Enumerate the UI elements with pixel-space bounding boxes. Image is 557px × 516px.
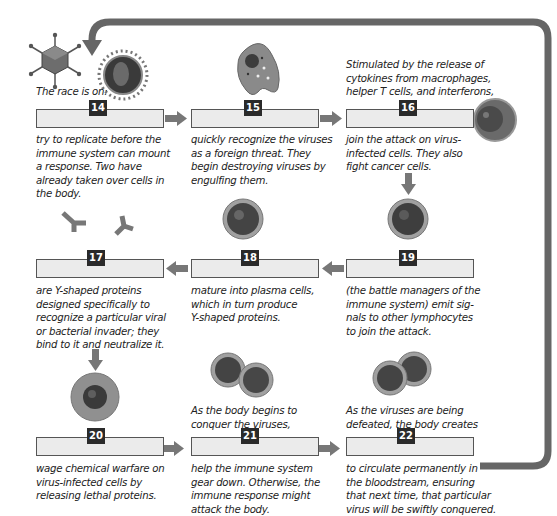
arrow-right-icon (320, 111, 342, 126)
killer-t-cell-icon (71, 373, 119, 421)
step-14-before-text: The race is on: (36, 85, 107, 99)
helper-t-cell-icon (388, 199, 428, 239)
loop-arrowhead-icon (82, 40, 102, 56)
memory-cells-icon (373, 352, 431, 395)
step-19-after-text: (the battle managers of the immune syste… (346, 284, 480, 338)
step-16-after-text: join the attack on virus- infected cells… (346, 133, 463, 174)
step-22-number-badge: 22 (397, 428, 415, 444)
step-16-before-text: Stimulated by the release of cytokines f… (346, 58, 494, 99)
antibodies-icon (63, 213, 133, 234)
step-18-number-badge: 18 (241, 250, 259, 266)
step-21-number-badge: 21 (241, 428, 259, 444)
macrophage-icon (238, 44, 279, 95)
arrow-left-icon (166, 261, 188, 276)
arrow-right-icon (318, 441, 340, 456)
step-14-number-badge: 14 (89, 100, 107, 116)
suppressor-t-cells-icon (211, 353, 273, 397)
natural-killer-cell-icon (474, 99, 516, 141)
step-20-after-text: wage chemical warfare on virus-infected … (36, 462, 165, 503)
step-21-after-text: help the immune system gear down. Otherw… (191, 462, 320, 516)
arrow-down-icon (401, 173, 416, 195)
step-15-number-badge: 15 (244, 100, 262, 116)
step-17-number-badge: 17 (87, 250, 105, 266)
step-18-after-text: mature into plasma cells, which in turn … (191, 284, 314, 325)
step-19-number-badge: 19 (399, 250, 417, 266)
step-14-after-text: try to replicate before the immune syste… (36, 133, 170, 201)
arrow-right-icon (165, 111, 187, 126)
step-16-number-badge: 16 (399, 100, 417, 116)
b-cell-icon (223, 199, 263, 239)
arrow-right-icon (162, 441, 184, 456)
step-15-after-text: quickly recognize the viruses as a forei… (191, 133, 332, 187)
arrow-left-icon (322, 261, 344, 276)
step-17-after-text: are Y-shaped proteins designed specifica… (36, 284, 166, 352)
step-20-number-badge: 20 (87, 428, 105, 444)
arrow-down-icon (88, 349, 103, 371)
step-22-after-text: to circulate permanently in the bloodstr… (346, 462, 496, 516)
